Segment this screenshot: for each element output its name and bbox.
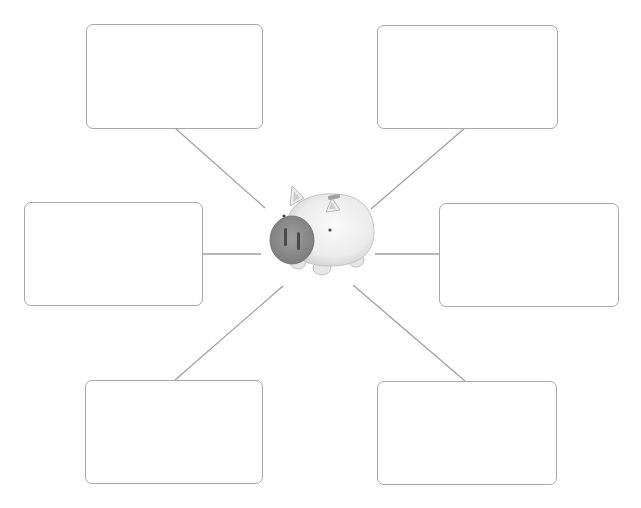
- box-middle-right-text[interactable]: [448, 212, 610, 298]
- connector-top-left: [175, 128, 265, 208]
- connector-top-right: [371, 128, 465, 209]
- box-middle-left[interactable]: [24, 202, 203, 306]
- box-top-right[interactable]: [377, 25, 558, 129]
- box-bottom-right[interactable]: [377, 381, 557, 485]
- box-top-right-text[interactable]: [386, 34, 549, 120]
- box-middle-left-text[interactable]: [33, 211, 194, 297]
- box-bottom-left[interactable]: [85, 380, 263, 484]
- piggy-bank-icon: [266, 184, 378, 276]
- box-top-left[interactable]: [86, 24, 263, 129]
- box-top-left-text[interactable]: [95, 33, 254, 120]
- box-bottom-right-text[interactable]: [386, 390, 548, 476]
- box-middle-right[interactable]: [439, 203, 619, 307]
- box-bottom-left-text[interactable]: [94, 389, 254, 475]
